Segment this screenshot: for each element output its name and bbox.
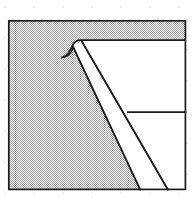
figure-canvas: Hatched square with folded corner diagra… xyxy=(0,0,195,198)
technical-line-drawing: Hatched square with folded corner diagra… xyxy=(0,0,195,198)
